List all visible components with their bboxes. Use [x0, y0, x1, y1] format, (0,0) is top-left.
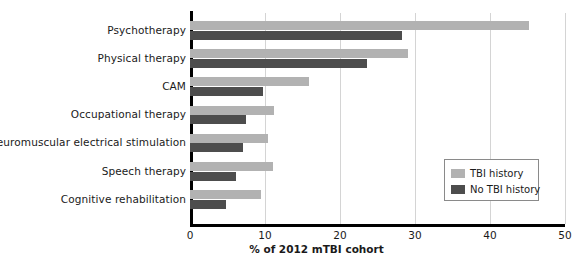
bar-psychotherapy-no-tbi-history — [190, 31, 402, 40]
bar-occupational-therapy-tbi-history — [190, 106, 274, 115]
gridline-50 — [565, 13, 566, 224]
legend-label-no-tbi-history: No TBI history — [470, 184, 540, 195]
bar-occupational-therapy-no-tbi-history — [190, 115, 246, 124]
chart-legend: TBI history No TBI history — [444, 159, 539, 201]
x-tick-10: 10 — [258, 229, 271, 241]
bar-psychotherapy-tbi-history — [190, 21, 529, 30]
x-tick-20: 20 — [333, 229, 346, 241]
legend-label-tbi-history: TBI history — [470, 168, 524, 179]
category-label-cam: CAM — [162, 80, 186, 92]
x-axis-line — [190, 224, 565, 227]
gridline-20 — [340, 13, 341, 224]
legend-item-no-tbi-history: No TBI history — [451, 181, 532, 197]
category-label-psychotherapy: Psychotherapy — [107, 24, 186, 36]
x-tick-40: 40 — [483, 229, 496, 241]
x-tick-0: 0 — [187, 229, 194, 241]
gridline-10 — [265, 13, 266, 224]
x-tick-50: 50 — [558, 229, 571, 241]
bar-physical-therapy-tbi-history — [190, 49, 408, 58]
bar-physical-therapy-no-tbi-history — [190, 59, 367, 68]
x-axis-title: % of 2012 mTBI cohort — [0, 243, 573, 255]
category-label-physical-therapy: Physical therapy — [97, 52, 186, 64]
category-label-speech-therapy: Speech therapy — [102, 165, 186, 177]
bar-cognitive-rehabilitation-no-tbi-history — [190, 200, 226, 209]
gridline-30 — [415, 13, 416, 224]
category-label-cognitive-rehabilitation: Cognitive rehabilitation — [61, 193, 186, 205]
bar-neuromuscular-electrical-stimulation-no-tbi-history — [190, 143, 243, 152]
bar-cam-no-tbi-history — [190, 87, 263, 96]
bar-cognitive-rehabilitation-tbi-history — [190, 190, 261, 199]
legend-swatch-icon-no-tbi-history — [451, 185, 465, 194]
bar-cam-tbi-history — [190, 77, 309, 86]
bar-neuromuscular-electrical-stimulation-tbi-history — [190, 134, 268, 143]
bar-speech-therapy-no-tbi-history — [190, 172, 236, 181]
legend-swatch-icon-tbi-history — [451, 169, 465, 178]
bar-speech-therapy-tbi-history — [190, 162, 273, 171]
legend-item-tbi-history: TBI history — [451, 165, 532, 181]
bar-chart: PsychotherapyPhysical therapyCAMOccupati… — [0, 0, 573, 259]
x-tick-30: 30 — [408, 229, 421, 241]
category-label-neuromuscular-electrical-stimulation: Neuromuscular electrical stimulation — [0, 136, 186, 148]
category-label-occupational-therapy: Occupational therapy — [71, 108, 186, 120]
